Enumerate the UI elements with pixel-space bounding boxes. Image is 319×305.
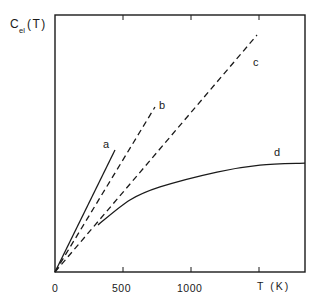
curve-d bbox=[98, 163, 305, 225]
curve-label-d: d bbox=[274, 146, 280, 158]
curves bbox=[55, 35, 305, 272]
y-axis-label-main: C bbox=[10, 17, 19, 31]
curve-b bbox=[55, 107, 155, 272]
curve-c bbox=[55, 35, 257, 272]
x-tick-label-0: 0 bbox=[52, 282, 58, 294]
plot-frame bbox=[55, 15, 305, 272]
x-ticks-top bbox=[123, 15, 259, 20]
curve-label-c: c bbox=[253, 56, 259, 68]
curve-a bbox=[55, 150, 115, 272]
curve-label-a: a bbox=[103, 138, 110, 150]
x-tick-label-1000: 1000 bbox=[177, 282, 202, 294]
y-axis-label-suffix: (T) bbox=[27, 17, 47, 31]
x-tick-label-500: 500 bbox=[112, 282, 131, 294]
curve-label-b: b bbox=[159, 99, 165, 111]
chart: 0 500 1000 T (K) C el (T) a b c d bbox=[0, 0, 319, 305]
x-axis-label: T (K) bbox=[257, 280, 290, 292]
y-axis-label-sub: el bbox=[19, 26, 25, 35]
x-ticks-bottom bbox=[123, 267, 259, 272]
